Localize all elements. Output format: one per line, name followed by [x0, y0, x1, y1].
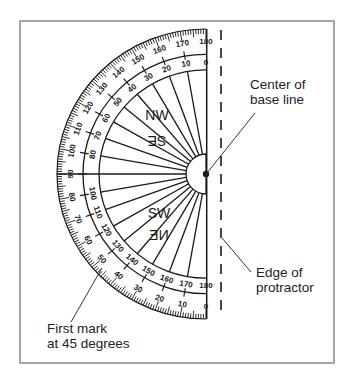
scale-tick: [60, 146, 65, 147]
scale-tick: [160, 36, 162, 41]
scale-major-tick: [184, 288, 186, 297]
center-label-line2: base line: [250, 92, 304, 107]
annotation-first-mark: First mark at 45 degrees: [47, 268, 130, 351]
scale-tick: [183, 31, 184, 36]
spoke-line: [169, 192, 199, 272]
scale-tick: [76, 242, 80, 244]
scale-tick: [116, 58, 119, 62]
scale-tick: [61, 208, 66, 209]
scale-number: 110: [91, 205, 104, 221]
scale-tick: [157, 37, 159, 42]
scale-tick: [167, 307, 169, 315]
compass-label-sw: SW: [148, 205, 171, 221]
scale-tick: [172, 33, 173, 38]
scale-number: 130: [94, 81, 110, 97]
scale-tick: [125, 52, 128, 56]
scale-number: 170: [179, 279, 194, 290]
scale-number: 0: [204, 58, 209, 67]
center-leader-line: [207, 113, 255, 173]
scale-tick: [64, 217, 69, 219]
scale-tick: [129, 50, 132, 54]
scale-tick: [62, 210, 70, 212]
scale-number: 100: [87, 186, 98, 201]
spoke-line: [101, 177, 187, 192]
scale-tick: [125, 292, 128, 296]
scale-tick: [69, 117, 74, 119]
edge-label-line1: Edge of: [256, 265, 303, 280]
figure-frame: [20, 21, 334, 363]
scale-tick: [65, 127, 70, 129]
scale-tick: [172, 311, 173, 316]
spoke-line: [187, 71, 202, 154]
spoke-line: [105, 181, 187, 210]
scale-number: 90: [66, 169, 75, 178]
scale-tick: [58, 189, 63, 190]
scale-tick: [153, 39, 155, 44]
scale-number: 180: [199, 281, 213, 290]
scale-tick: [78, 246, 82, 249]
scale-tick: [87, 258, 91, 261]
scale-tick: [90, 83, 94, 86]
scale-tick: [85, 256, 89, 259]
scale-tick: [175, 32, 176, 37]
protractor: 1801701601501401301201101009001020304050…: [57, 29, 213, 319]
scale-tick: [165, 35, 166, 40]
scale-tick: [102, 275, 105, 279]
scale-tick: [95, 77, 99, 80]
annotation-center-of-base-line: Center of base line: [207, 77, 306, 173]
scale-tick: [58, 161, 66, 162]
scale-tick: [188, 30, 189, 35]
scale-tick: [141, 300, 143, 304]
scale-tick: [127, 293, 130, 297]
scale-tick: [170, 33, 171, 38]
scale-tick: [150, 304, 152, 309]
scale-number: 10: [181, 58, 192, 69]
scale-tick: [157, 306, 159, 311]
scale-tick: [112, 61, 115, 65]
scale-number: 20: [161, 63, 173, 75]
scale-tick: [81, 95, 85, 98]
scale-tick: [80, 97, 84, 100]
scale-tick: [193, 311, 194, 319]
scale-number: 0: [204, 302, 209, 311]
protractor-diagram: 1801701601501401301201101009001020304050…: [0, 0, 350, 375]
scale-tick: [69, 229, 74, 231]
scale-tick: [160, 307, 162, 312]
scale-tick: [127, 51, 130, 55]
scale-tick: [165, 309, 166, 314]
scale-tick: [97, 75, 101, 78]
scale-tick: [90, 262, 94, 265]
scale-tick: [136, 46, 138, 50]
scale-tick: [134, 297, 136, 301]
scale-tick: [59, 151, 64, 152]
scale-tick: [175, 311, 176, 316]
scale-tick: [58, 194, 63, 195]
scale-tick: [136, 298, 138, 302]
scale-tick: [138, 299, 140, 303]
scale-number: 50: [112, 95, 125, 108]
scale-tick: [68, 226, 73, 228]
scale-number: 140: [111, 65, 127, 81]
scale-tick: [61, 141, 66, 142]
scale-tick: [81, 250, 85, 253]
scale-tick: [141, 44, 143, 48]
scale-tick: [102, 70, 105, 74]
scale-tick: [108, 65, 111, 69]
scale-tick: [58, 186, 66, 187]
scale-tick: [178, 32, 179, 37]
scale-tick: [153, 305, 155, 310]
scale-tick: [64, 215, 69, 216]
scale-tick: [129, 294, 132, 298]
scale-major-tick: [80, 194, 89, 196]
scale-tick: [63, 213, 68, 214]
scale-number: 70: [72, 214, 84, 226]
scale-tick: [60, 203, 65, 204]
scale-number: 100: [66, 143, 77, 158]
spoke-line: [101, 156, 187, 171]
scale-tick: [178, 312, 179, 317]
scale-tick: [73, 108, 77, 110]
scale-number: 50: [96, 253, 109, 266]
scale-tick: [193, 30, 194, 38]
scale-tick: [62, 136, 70, 138]
scale-tick: [82, 93, 86, 96]
